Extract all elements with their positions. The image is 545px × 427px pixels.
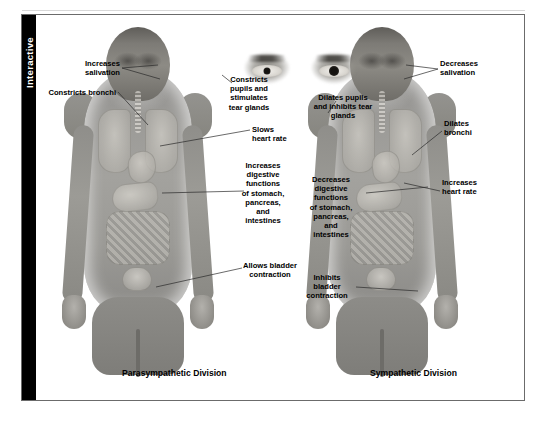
intestines — [106, 211, 170, 265]
organ-overlay — [96, 91, 180, 301]
label-decreases-digestive: Decreasesdigestivefunctionsof stomach,pa… — [298, 175, 364, 239]
stomach — [111, 181, 160, 214]
lung-left — [98, 109, 131, 173]
hand-right — [190, 295, 214, 329]
figure-stage: Increasessalivation Constricts bronchi C… — [36, 15, 525, 400]
hand-left — [62, 295, 86, 329]
label-dilates-pupils: Dilates pupilsand inhibits tearglands — [300, 93, 386, 121]
trachea — [135, 91, 141, 133]
label-dilates-bronchi: Dilatesbronchi — [444, 119, 514, 137]
label-increases-digestive: Increasesdigestivefunctionsof stomach,pa… — [232, 161, 294, 225]
bladder — [122, 267, 152, 291]
label-slows-heart-rate: Slowsheart rate — [252, 125, 312, 143]
pupil-constricted — [264, 68, 271, 75]
parasympathetic-body-figure — [54, 33, 222, 381]
label-increases-heart-rate: Increasesheart rate — [442, 178, 518, 196]
bladder — [366, 267, 396, 291]
eyebrow — [315, 55, 353, 62]
label-constricts-bronchi: Constricts bronchi — [36, 88, 116, 97]
sympathetic-division-title: Sympathetic Division — [370, 368, 457, 378]
interactive-figure-panel: Interactive — [21, 14, 525, 401]
eyeball — [319, 65, 349, 77]
label-increases-salivation: Increasessalivation — [36, 59, 120, 77]
label-decreases-salivation: Decreasessalivation — [440, 59, 520, 77]
parasympathetic-division-title: Parasympathetic Division — [122, 368, 227, 378]
pupil-dilated — [329, 66, 339, 76]
label-inhibits-bladder-contraction: Inhibitsbladdercontraction — [294, 273, 360, 301]
screenshot-root: Interactive — [0, 0, 545, 427]
interactive-tab-label: Interactive — [24, 14, 35, 118]
figure-caption-cropped — [22, 414, 525, 423]
top-divider-rule — [22, 10, 525, 11]
hand-right — [434, 295, 458, 329]
dilated-pupil-eye-image — [307, 46, 361, 88]
label-constricts-pupils: Constrictspupils andstimulatestear gland… — [218, 75, 280, 112]
interactive-tab[interactable]: Interactive — [22, 15, 36, 400]
eyebrow — [248, 55, 286, 62]
